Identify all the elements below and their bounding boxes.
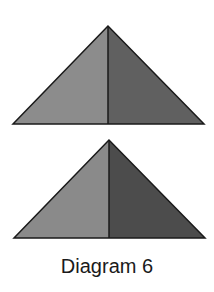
top-triangle — [13, 26, 204, 124]
bottom-triangle — [14, 140, 205, 238]
diagram-canvas — [0, 0, 214, 292]
diagram-caption: Diagram 6 — [0, 255, 214, 278]
